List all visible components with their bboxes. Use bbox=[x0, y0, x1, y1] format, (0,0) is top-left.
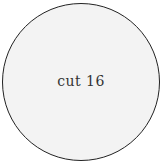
diagram-canvas: cut 16 bbox=[0, 0, 164, 164]
circle-node: cut 16 bbox=[2, 3, 160, 161]
node-label: cut 16 bbox=[57, 73, 105, 89]
